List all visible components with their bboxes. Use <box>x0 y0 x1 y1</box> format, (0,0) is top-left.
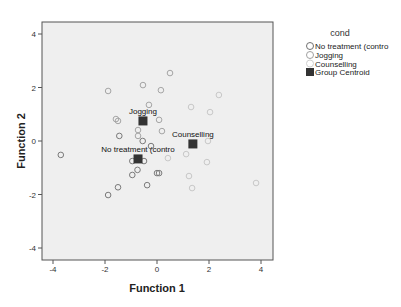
open-circle-icon <box>307 60 314 67</box>
x-tick-label: -2 <box>101 265 109 274</box>
centroid-label: No treatment (contro <box>101 145 175 154</box>
centroid-label: Counselling <box>172 130 214 139</box>
legend: cond No treatment (contro Jogging Counse… <box>306 28 389 77</box>
y-tick-label: -4 <box>29 244 37 253</box>
x-tick-label: 4 <box>259 265 264 274</box>
plot-area <box>42 22 273 260</box>
filled-square-icon <box>306 68 314 76</box>
legend-item-no-treatment: No treatment (contro <box>307 42 389 51</box>
x-axis-ticks: -4-2024 <box>49 260 263 274</box>
x-tick-label: -4 <box>49 265 57 274</box>
x-axis-title: Function 1 <box>129 282 185 294</box>
centroid-marker <box>188 139 197 148</box>
x-tick-label: 2 <box>207 265 212 274</box>
x-tick-label: 0 <box>155 265 160 274</box>
legend-item-group-centroid: Group Centroid <box>306 68 370 77</box>
y-axis-title: Function 2 <box>15 113 27 169</box>
y-tick-label: 0 <box>32 137 37 146</box>
y-tick-label: 4 <box>32 30 37 39</box>
discriminant-scatter-chart: -4-2024 -4-2024 Function 1 Function 2 Jo… <box>0 0 401 307</box>
legend-label: No treatment (contro <box>315 42 389 51</box>
y-axis-ticks: -4-2024 <box>29 30 42 253</box>
legend-label: Group Centroid <box>315 68 370 77</box>
y-tick-label: 2 <box>32 84 37 93</box>
centroid-marker <box>134 154 143 163</box>
centroid-marker <box>138 116 147 125</box>
open-circle-icon <box>307 52 314 59</box>
y-tick-label: -2 <box>29 191 37 200</box>
legend-title: cond <box>330 28 350 38</box>
open-circle-icon <box>307 43 314 50</box>
centroid-label: Jogging <box>129 107 157 116</box>
